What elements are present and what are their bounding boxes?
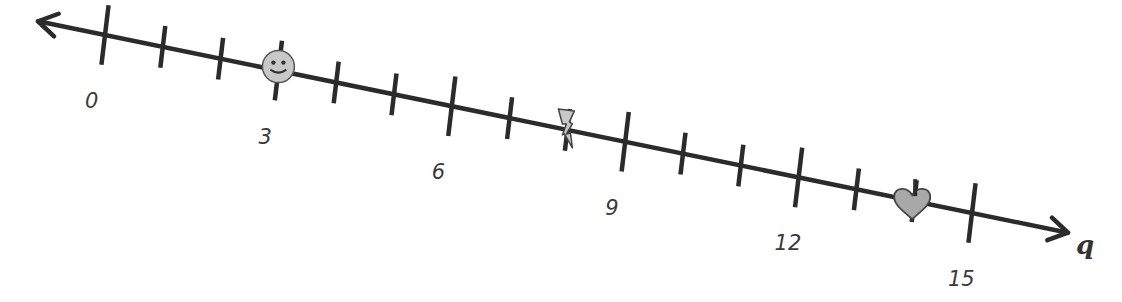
tick-4 (334, 62, 339, 104)
heart-icon (894, 179, 930, 219)
tick-label-6: 6 (432, 160, 445, 184)
tick-label-3: 3 (258, 125, 271, 149)
tick-2 (218, 38, 223, 80)
tick-label-15: 15 (948, 267, 975, 291)
tick-11 (738, 145, 743, 187)
tick-5 (391, 73, 396, 115)
smiley-face-icon (262, 51, 294, 83)
variable-label: q (1076, 230, 1094, 260)
tick-label-12: 12 (775, 231, 802, 255)
number-line: 03691215 q (0, 0, 1122, 302)
tick-7 (507, 97, 512, 139)
tick-1 (160, 26, 165, 68)
tick-label-0: 0 (85, 89, 98, 113)
tick-13 (854, 168, 859, 210)
tick-10 (680, 133, 685, 175)
number-line-diagram: 03691215 q (0, 0, 1122, 302)
tick-labels: 03691215 (85, 89, 975, 291)
tick-label-9: 9 (605, 196, 618, 220)
